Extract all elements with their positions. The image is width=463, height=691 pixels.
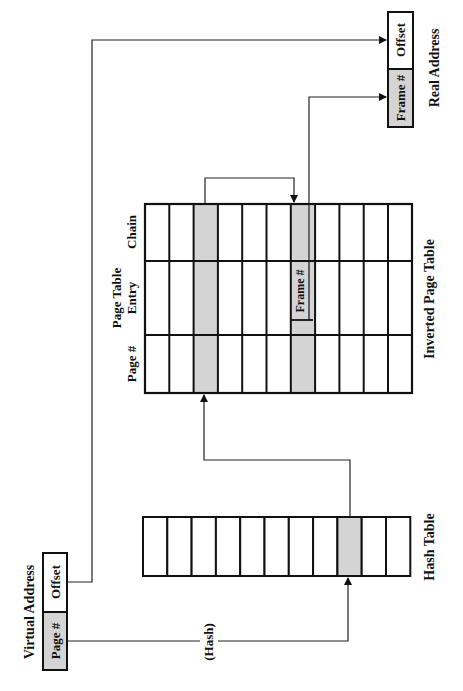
ipt-row-highlighted bbox=[194, 204, 218, 393]
hash-cell bbox=[289, 517, 313, 576]
hash-cell bbox=[386, 517, 410, 576]
ipt-title: Inverted Page Table bbox=[422, 239, 437, 359]
inverted-page-table: Frame # Page # Page Table Entry Chain In… bbox=[109, 204, 437, 393]
hash-cell-highlighted bbox=[337, 517, 361, 576]
hash-cell bbox=[362, 517, 386, 576]
frame-connector-arrow bbox=[309, 97, 386, 261]
ra-frame-label: Frame # bbox=[393, 74, 408, 121]
ipt-header-page: Page # bbox=[124, 345, 139, 382]
hash-table-title: Hash Table bbox=[422, 513, 437, 580]
virtual-address: Page # Offset Virtual Address bbox=[22, 553, 67, 670]
virtual-address-title: Virtual Address bbox=[22, 564, 37, 659]
hash-to-ipt-arrow bbox=[204, 395, 350, 517]
hash-cell bbox=[216, 517, 240, 576]
ipt-header-entry-line2: Entry bbox=[124, 281, 139, 314]
hash-cell bbox=[167, 517, 191, 576]
va-offset-label: Offset bbox=[48, 564, 63, 599]
ipt-frame-label: Frame # bbox=[293, 270, 307, 313]
ipt-border bbox=[145, 204, 412, 393]
hash-cell bbox=[313, 517, 337, 576]
hash-function-label: (Hash) bbox=[201, 623, 216, 661]
ipt-header-entry-line1: Page Table bbox=[109, 268, 124, 329]
va-page-label: Page # bbox=[48, 622, 63, 659]
ra-offset-label: Offset bbox=[393, 22, 408, 57]
hash-table: Hash Table bbox=[143, 513, 437, 580]
hash-cell bbox=[192, 517, 216, 576]
inverted-page-table-diagram: Page # Offset Virtual Address Frame # Of… bbox=[0, 0, 463, 691]
ipt-header-chain: Chain bbox=[124, 214, 139, 249]
hash-cell bbox=[240, 517, 264, 576]
real-address: Frame # Offset Real Address bbox=[388, 12, 442, 127]
real-address-title: Real Address bbox=[427, 28, 442, 107]
hash-cell bbox=[143, 517, 167, 576]
chain-pointer-arrow bbox=[205, 178, 294, 204]
hash-cell bbox=[265, 517, 289, 576]
